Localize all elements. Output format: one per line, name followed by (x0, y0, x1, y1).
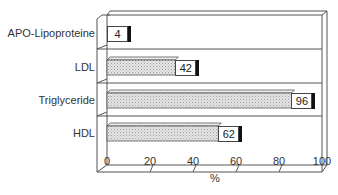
category-label: APO-Lipoproteine (0, 27, 95, 39)
x-axis-label: % (200, 172, 230, 184)
category-label: Triglyceride (0, 94, 95, 106)
x-tick-label: 40 (178, 155, 208, 167)
bar (107, 93, 291, 108)
bar-chart: APO-Lipoproteine LDL Triglyceride HDL 44… (0, 0, 338, 195)
x-tick-label: 20 (135, 155, 165, 167)
x-tick-label: 60 (221, 155, 251, 167)
value-label: 96 (291, 93, 312, 109)
category-label: HDL (0, 127, 95, 139)
bar (107, 60, 175, 75)
value-label: 42 (175, 60, 196, 76)
value-label: 4 (107, 26, 128, 42)
x-tick-label: 100 (307, 155, 337, 167)
category-label: LDL (0, 61, 95, 73)
bar (107, 126, 218, 141)
x-tick-label: 0 (92, 155, 122, 167)
x-tick-label: 80 (264, 155, 294, 167)
value-label: 62 (218, 126, 239, 142)
